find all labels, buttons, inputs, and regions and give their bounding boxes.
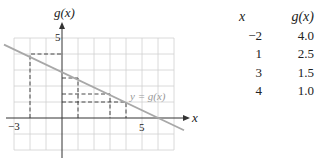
table-cell-x: 1 xyxy=(222,46,262,62)
tick-label-x-5: 5 xyxy=(139,121,145,133)
table-row: 1 2.5 xyxy=(222,45,314,64)
y-axis-label: g(x) xyxy=(54,5,75,20)
table-cell-gx: 4.0 xyxy=(262,28,314,44)
table-cell-gx: 1.5 xyxy=(262,65,314,81)
table-cell-gx: 1.0 xyxy=(262,83,314,99)
table-row: 4 1.0 xyxy=(222,82,314,101)
tick-label-x-neg3: −3 xyxy=(8,120,20,132)
y-axis-arrow-icon xyxy=(59,22,65,29)
value-table: x g(x) −2 4.0 1 2.5 3 1.5 4 1.0 xyxy=(222,8,314,101)
graph: g(x) x 5 −3 5 y = g(x) xyxy=(0,0,200,161)
table-row: −2 4.0 xyxy=(222,27,314,46)
tick-label-y-5: 5 xyxy=(55,31,61,43)
x-axis-label: x xyxy=(191,110,198,125)
line-label: y = g(x) xyxy=(129,90,166,103)
table-header-x: x xyxy=(222,9,262,25)
table-header-gx: g(x) xyxy=(262,9,314,25)
table-cell-x: 4 xyxy=(222,83,262,99)
table-row: 3 1.5 xyxy=(222,64,314,83)
table-cell-gx: 2.5 xyxy=(262,46,314,62)
table-header: x g(x) xyxy=(222,8,314,27)
x-axis-arrow-icon xyxy=(183,115,190,121)
table-cell-x: −2 xyxy=(222,28,262,44)
table-cell-x: 3 xyxy=(222,65,262,81)
